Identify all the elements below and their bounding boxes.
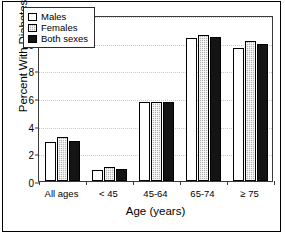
- bar-both: [69, 141, 81, 181]
- bar-males: [45, 142, 57, 181]
- bar-females: [245, 41, 257, 181]
- bar-both: [257, 44, 269, 181]
- legend-label: Females: [41, 23, 77, 33]
- x-tick-mark: [227, 181, 228, 185]
- x-tick-mark: [86, 181, 87, 185]
- bar-females: [57, 137, 69, 181]
- bar-females: [104, 167, 116, 181]
- x-axis-title: Age (years): [38, 205, 273, 217]
- bar-group: [92, 17, 128, 181]
- legend-swatch-females: [28, 24, 37, 32]
- legend-swatch-both: [28, 35, 37, 43]
- x-tick-label: 45-64: [143, 188, 167, 199]
- bar-males: [186, 38, 198, 181]
- bar-females: [151, 102, 163, 181]
- y-tick-label: 2: [28, 150, 34, 161]
- legend-swatch-males: [28, 13, 37, 21]
- legend-label: Males: [41, 12, 66, 22]
- legend-label: Both sexes: [41, 34, 88, 44]
- bar-both: [116, 169, 128, 181]
- x-tick-mark: [39, 181, 40, 185]
- x-tick-mark: [180, 181, 181, 185]
- x-tick-label: ≥ 75: [240, 188, 258, 199]
- bar-males: [92, 170, 104, 181]
- bar-both: [163, 102, 175, 181]
- bar-females: [198, 35, 210, 181]
- bar-group: [186, 17, 222, 181]
- legend-item: Females: [28, 22, 88, 33]
- y-tick-label: 4: [28, 122, 34, 133]
- bar-chart: Percent With Diabetes 024681012 All ages…: [0, 0, 285, 236]
- x-tick-mark: [274, 181, 275, 185]
- bar-males: [139, 102, 151, 181]
- y-tick-label: 6: [28, 95, 34, 106]
- x-tick-label: 65-74: [190, 188, 214, 199]
- x-tick-mark: [133, 181, 134, 185]
- y-tick-label: 0: [28, 178, 34, 189]
- bar-males: [233, 48, 245, 181]
- x-tick-label: < 45: [99, 188, 118, 199]
- legend-item: Males: [28, 11, 88, 22]
- x-tick-label: All ages: [45, 188, 79, 199]
- bar-group: [233, 17, 269, 181]
- bar-group: [139, 17, 175, 181]
- y-tick-label: 8: [28, 67, 34, 78]
- chart-legend: MalesFemalesBoth sexes: [23, 7, 95, 48]
- bar-both: [210, 37, 222, 181]
- legend-item: Both sexes: [28, 33, 88, 44]
